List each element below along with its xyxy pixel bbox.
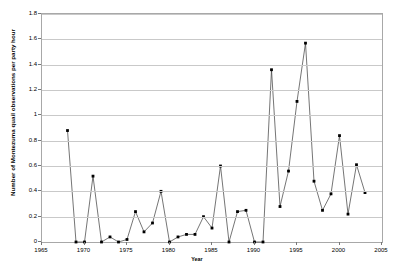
data-point-marker xyxy=(321,209,324,212)
data-point-marker xyxy=(330,192,333,195)
y-tick-label: 0.4 xyxy=(9,187,37,193)
y-tick-label: 0.6 xyxy=(9,162,37,168)
x-tick-label: 2000 xyxy=(319,247,359,253)
data-point-marker xyxy=(66,129,69,132)
data-series-line xyxy=(42,14,382,242)
chart-container: Number of Montezuma quail observations p… xyxy=(0,0,394,266)
y-tick-label: 1 xyxy=(9,111,37,117)
data-point-marker xyxy=(270,68,273,71)
x-tick-label: 1990 xyxy=(234,247,274,253)
x-tick-label: 1980 xyxy=(149,247,189,253)
y-tick-mark xyxy=(38,13,41,14)
data-point-marker xyxy=(92,175,95,178)
gridline-y xyxy=(42,90,382,91)
gridline-y xyxy=(42,115,382,116)
data-point-marker xyxy=(134,210,137,213)
plot-area xyxy=(41,13,383,243)
x-tick-label: 2005 xyxy=(361,247,394,253)
data-point-marker xyxy=(109,236,112,239)
gridline-y xyxy=(42,65,382,66)
data-point-marker xyxy=(287,170,290,173)
y-tick-mark xyxy=(38,38,41,39)
x-tick-mark xyxy=(339,242,340,245)
data-point-marker xyxy=(245,209,248,212)
data-point-marker xyxy=(185,233,188,236)
x-tick-label: 1970 xyxy=(64,247,104,253)
x-tick-mark xyxy=(126,242,127,245)
y-tick-label: 1.4 xyxy=(9,61,37,67)
data-point-marker xyxy=(126,238,129,241)
y-tick-label: 0.2 xyxy=(9,213,37,219)
gridline-y xyxy=(42,39,382,40)
series-polyline xyxy=(68,43,366,242)
y-tick-label: 0.8 xyxy=(9,137,37,143)
y-tick-mark xyxy=(38,114,41,115)
x-tick-mark xyxy=(169,242,170,245)
y-tick-label: 1.2 xyxy=(9,86,37,92)
y-tick-mark xyxy=(38,64,41,65)
data-point-marker xyxy=(338,134,341,137)
y-tick-label: 0 xyxy=(9,238,37,244)
x-tick-label: 1985 xyxy=(191,247,231,253)
data-point-marker xyxy=(304,42,307,45)
data-point-marker xyxy=(279,205,282,208)
y-tick-mark xyxy=(38,165,41,166)
data-point-marker xyxy=(117,241,120,244)
gridline-y xyxy=(42,166,382,167)
x-tick-mark xyxy=(41,242,42,245)
data-point-marker xyxy=(100,241,103,244)
y-tick-label: 1.8 xyxy=(9,10,37,16)
x-tick-label: 1975 xyxy=(106,247,146,253)
data-point-marker xyxy=(211,227,214,230)
data-point-marker xyxy=(75,241,78,244)
data-point-marker xyxy=(296,100,299,103)
x-axis-title: Year xyxy=(0,256,394,262)
x-tick-mark xyxy=(211,242,212,245)
gridline-y xyxy=(42,191,382,192)
data-point-marker xyxy=(194,233,197,236)
gridline-y xyxy=(42,141,382,142)
x-tick-mark xyxy=(84,242,85,245)
data-point-marker xyxy=(228,241,231,244)
gridline-y xyxy=(42,217,382,218)
y-tick-mark xyxy=(38,89,41,90)
data-point-marker xyxy=(143,230,146,233)
x-tick-mark xyxy=(296,242,297,245)
data-point-marker xyxy=(236,210,239,213)
y-tick-label: 1.6 xyxy=(9,35,37,41)
x-tick-label: 1995 xyxy=(276,247,316,253)
data-point-marker xyxy=(151,222,154,225)
data-point-marker xyxy=(347,213,350,216)
y-tick-mark xyxy=(38,190,41,191)
data-point-marker xyxy=(262,241,265,244)
x-tick-mark xyxy=(254,242,255,245)
data-point-marker xyxy=(177,236,180,239)
gridline-y xyxy=(42,14,382,15)
x-tick-label: 1965 xyxy=(21,247,61,253)
y-tick-mark xyxy=(38,140,41,141)
y-tick-mark xyxy=(38,216,41,217)
x-tick-mark xyxy=(381,242,382,245)
data-point-marker xyxy=(313,180,316,183)
